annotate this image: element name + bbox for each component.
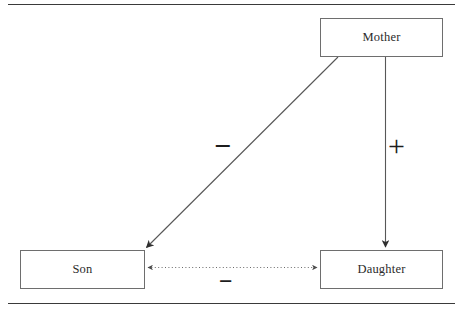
- bottom-horizontal-rule: [8, 303, 455, 304]
- node-son[interactable]: Son: [20, 250, 145, 289]
- edge-mother-to-son: [147, 57, 339, 248]
- node-son-label: Son: [72, 262, 92, 277]
- sign-mother-to-son: −: [214, 131, 231, 161]
- top-horizontal-rule: [8, 4, 455, 5]
- node-daughter-label: Daughter: [357, 262, 405, 277]
- node-mother[interactable]: Mother: [320, 18, 443, 57]
- sign-son-daughter: −: [219, 269, 233, 293]
- node-daughter[interactable]: Daughter: [320, 250, 443, 289]
- sign-mother-to-daughter: +: [388, 131, 405, 161]
- node-mother-label: Mother: [363, 30, 401, 45]
- diagram-canvas: Mother Son Daughter − + −: [0, 0, 462, 314]
